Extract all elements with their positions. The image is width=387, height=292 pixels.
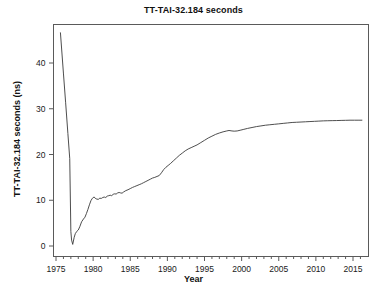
x-tick-label: 1995 (195, 264, 214, 274)
x-tick-label: 1985 (121, 264, 140, 274)
x-tick-label: 2015 (344, 264, 363, 274)
x-tick-label: 2005 (269, 264, 288, 274)
x-tick-label: 1980 (84, 264, 103, 274)
axis-ticks (49, 63, 360, 261)
y-tick-label: 10 (36, 195, 46, 205)
x-tick-label: 2000 (232, 264, 251, 274)
series-line (60, 33, 361, 245)
y-tick-label: 40 (36, 58, 46, 68)
y-tick-label: 0 (41, 241, 46, 251)
x-tick-label: 2010 (306, 264, 325, 274)
plot-area: 1975198019851990199520002005201020150102… (0, 0, 387, 292)
y-tick-label: 30 (36, 104, 46, 114)
x-tick-label: 1990 (158, 264, 177, 274)
chart-figure: TT-TAI-32.184 seconds TT-TAI-32.184 seco… (0, 0, 387, 292)
y-tick-label: 20 (36, 150, 46, 160)
axis-tick-labels: 1975198019851990199520002005201020150102… (36, 58, 363, 274)
x-tick-label: 1975 (47, 264, 66, 274)
plot-frame (54, 25, 369, 257)
data-series (60, 33, 361, 245)
